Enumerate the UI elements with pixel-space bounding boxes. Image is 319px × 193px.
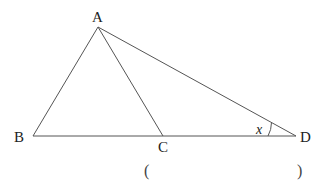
label-point-a: A: [92, 9, 103, 25]
angle-label-x: x: [255, 122, 263, 137]
angle-arc-d: [268, 123, 272, 137]
segment-ab: [33, 27, 98, 136]
label-point-d: D: [300, 129, 311, 145]
answer-close-paren: ): [297, 162, 302, 180]
label-point-c: C: [158, 139, 168, 155]
segment-ad: [98, 27, 296, 136]
label-point-b: B: [14, 129, 24, 145]
segment-ac: [98, 27, 163, 136]
answer-open-paren: (: [144, 162, 149, 180]
geometry-figure: A B C D x ( ): [0, 0, 319, 193]
